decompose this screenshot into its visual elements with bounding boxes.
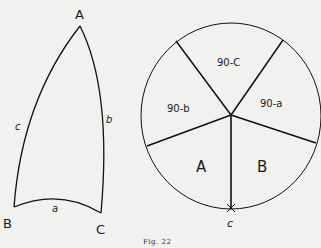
segment-90-b-label: 90-b bbox=[167, 103, 190, 114]
side-c-label: c bbox=[15, 121, 21, 132]
spherical-triangle bbox=[14, 26, 104, 213]
napier-circle bbox=[141, 23, 321, 212]
side-a-label: a bbox=[52, 203, 58, 214]
bottom-c-label: c bbox=[227, 217, 233, 230]
side-b-label: b bbox=[106, 114, 112, 125]
side-c-arc bbox=[14, 26, 80, 207]
vertex-b-label: B bbox=[3, 216, 12, 231]
vertex-c-label: C bbox=[96, 222, 105, 237]
side-b-arc bbox=[80, 26, 104, 213]
spoke-left bbox=[147, 115, 231, 146]
segment-90-a-label: 90-a bbox=[260, 98, 282, 109]
spoke-right bbox=[231, 115, 316, 143]
figure-canvas: A B C c b a 90-C 90-a B A 90-b c Fig. 22 bbox=[0, 0, 321, 248]
segment-a-label: A bbox=[196, 158, 207, 176]
vertex-a-label: A bbox=[75, 7, 84, 22]
figure-caption: Fig. 22 bbox=[143, 238, 171, 246]
segment-b-label: B bbox=[257, 158, 267, 176]
segment-90-c-label: 90-C bbox=[217, 57, 240, 68]
